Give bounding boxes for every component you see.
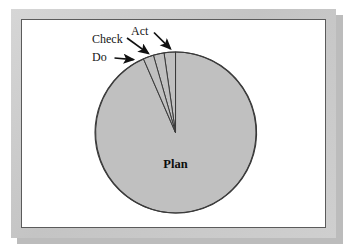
label-do: Do	[92, 50, 107, 64]
pie-chart: Do Check Act Plan	[22, 20, 325, 227]
chart-canvas: Do Check Act Plan	[22, 20, 325, 227]
label-check: Check	[92, 32, 123, 46]
figure-root: Do Check Act Plan	[0, 0, 348, 250]
arrow-act-icon	[154, 33, 171, 49]
label-plan: Plan	[163, 157, 187, 171]
arrow-do-icon	[115, 58, 134, 60]
arrow-check-icon	[127, 38, 149, 54]
label-act: Act	[131, 24, 149, 38]
